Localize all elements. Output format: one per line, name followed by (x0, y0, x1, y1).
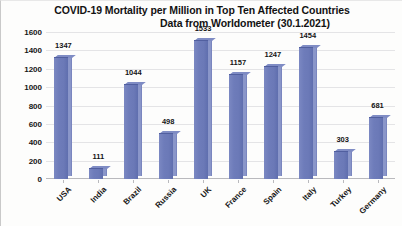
bar-front-face (229, 74, 243, 179)
x-axis-tick-label: Brazil (110, 185, 143, 218)
bar-value-label: 1454 (291, 32, 325, 40)
bar[interactable]: 681 (369, 115, 387, 179)
bar-side-face (383, 115, 387, 176)
bars-layer: 134711110444981533115712471454303681 (46, 32, 395, 179)
x-axis-tick-mark (133, 180, 134, 183)
bar-side-face (138, 82, 142, 176)
y-axis-tick-label: 1000 (1, 83, 42, 92)
x-axis-tick-label: Turkey (320, 185, 353, 218)
x-axis-tick-mark (203, 180, 204, 183)
bar[interactable]: 1044 (124, 82, 142, 179)
y-axis-tick-label: 800 (1, 101, 42, 110)
y-axis: 02004006008001000120014001600 (1, 32, 42, 179)
bar-value-label: 1247 (256, 51, 290, 59)
bar-value-label: 681 (361, 102, 395, 110)
bar[interactable]: 1347 (54, 55, 72, 179)
bar-side-face (68, 55, 72, 176)
y-axis-tick-label: 200 (1, 156, 42, 165)
x-axis-tick-label: USA (41, 185, 74, 218)
x-axis-tick-label: Germany (355, 185, 388, 218)
x-axis-tick-mark (98, 180, 99, 183)
bar-front-face (54, 57, 68, 179)
chart-title: COVID-19 Mortality per Million in Top Te… (1, 4, 402, 17)
bar-front-face (194, 40, 208, 179)
bar-front-face (369, 117, 383, 179)
bar[interactable]: 498 (159, 131, 177, 179)
bar-value-label: 1044 (116, 69, 150, 77)
y-axis-tick-label: 0 (1, 175, 42, 184)
y-axis-tick-label: 1400 (1, 46, 42, 55)
bar-front-face (334, 151, 348, 179)
x-axis-tick-mark (168, 180, 169, 183)
chart-screenshot: COVID-19 Mortality per Million in Top Te… (0, 0, 402, 226)
x-axis-tick-mark (63, 180, 64, 183)
bar-side-face (348, 149, 352, 176)
bar-side-face (208, 38, 212, 176)
bar-front-face (159, 133, 173, 179)
x-axis-tick-label: Russia (145, 185, 178, 218)
bar[interactable]: 1533 (194, 38, 212, 179)
bar[interactable]: 1247 (264, 64, 282, 179)
x-axis: USAIndiaBrazilRussiaUKFranceSpainItalyTu… (46, 180, 395, 224)
x-axis-tick-mark (378, 180, 379, 183)
bar-side-face (243, 72, 247, 176)
bar-side-face (173, 131, 177, 176)
x-axis-tick-mark (273, 180, 274, 183)
y-axis-tick-label: 1200 (1, 64, 42, 73)
x-axis-tick-mark (343, 180, 344, 183)
y-axis-tick-label: 600 (1, 119, 42, 128)
bar-front-face (299, 47, 313, 179)
bar-side-face (313, 45, 317, 176)
bar-value-label: 111 (81, 153, 115, 161)
x-axis-tick-label: India (75, 185, 108, 218)
bar-value-label: 1347 (46, 42, 80, 50)
bar-value-label: 1157 (221, 59, 255, 67)
x-axis-tick-mark (308, 180, 309, 183)
bar[interactable]: 1157 (229, 72, 247, 179)
bar-value-label: 498 (151, 118, 185, 126)
x-axis-tick-label: Spain (250, 185, 283, 218)
x-axis-tick-mark (238, 180, 239, 183)
bar-front-face (124, 84, 138, 179)
y-axis-tick-label: 400 (1, 138, 42, 147)
x-axis-tick-label: Italy (285, 185, 318, 218)
bar[interactable]: 303 (334, 149, 352, 179)
bar-value-label: 1533 (186, 25, 220, 33)
bar[interactable]: 1454 (299, 45, 317, 179)
bar-front-face (264, 66, 278, 179)
x-axis-tick-label: France (215, 185, 248, 218)
bar-front-face (89, 168, 103, 179)
bar-side-face (278, 64, 282, 176)
bar[interactable]: 111 (89, 166, 107, 179)
y-axis-tick-label: 1600 (1, 28, 42, 37)
x-axis-tick-label: UK (180, 185, 213, 218)
bar-value-label: 303 (326, 136, 360, 144)
